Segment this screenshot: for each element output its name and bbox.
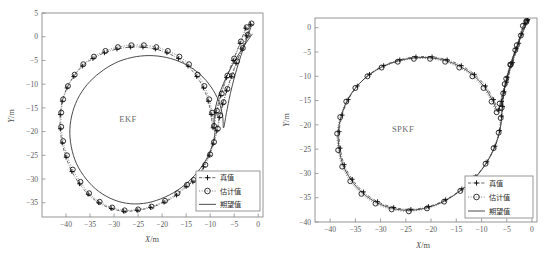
spkf-plot: −40−35−30−25−20−15−10−500−5−10−15−20−25−…	[275, 0, 550, 258]
legend-label-estimate: 估计值	[489, 193, 510, 202]
panel-spkf: −40−35−30−25−20−15−10−500−5−10−15−20−25−…	[275, 0, 550, 258]
x-tick-label: −15	[450, 225, 462, 234]
y-tick-label: −10	[26, 80, 38, 89]
x-tick-label: −25	[132, 220, 144, 229]
y-tick-label: −35	[26, 198, 38, 207]
y-tick-label: −15	[26, 104, 38, 113]
x-tick-label: −5	[230, 220, 238, 229]
x-tick-label: −40	[60, 220, 72, 229]
y-tick-label: −5	[303, 48, 311, 57]
x-tick-label: −35	[349, 225, 361, 234]
spkf-legend: 真值估计值期望值	[465, 176, 533, 218]
x-tick-label: −30	[375, 225, 387, 234]
y-tick-label: −5	[30, 56, 38, 65]
y-tick-label: −40	[299, 218, 311, 227]
legend-label-estimate: 估计值	[220, 187, 241, 196]
spkf-x-axis-title: X/m	[415, 241, 430, 250]
y-tick-label: 0	[34, 32, 38, 41]
ekf-x-axis-title: X/m	[144, 235, 159, 244]
y-tick-label: −10	[299, 72, 311, 81]
panel-ekf: −40−35−30−25−20−15−10−5050−5−10−15−20−25…	[0, 0, 275, 258]
y-tick-label: −25	[26, 151, 38, 160]
y-tick-label: −30	[299, 169, 311, 178]
legend-label-true: 真值	[220, 173, 234, 182]
x-tick-label: −20	[425, 225, 437, 234]
x-tick-label: −35	[84, 220, 96, 229]
panel-label-ekf: EKF	[119, 114, 136, 124]
marker-circle	[110, 205, 115, 210]
ekf-y-axis-title: Y/m	[7, 109, 16, 123]
y-tick-label: 5	[34, 9, 38, 18]
y-tick-label: −15	[299, 96, 311, 105]
x-tick-label: −15	[180, 220, 192, 229]
panel-label-spkf: SPKF	[392, 124, 414, 134]
y-tick-label: −35	[299, 193, 311, 202]
y-tick-label: −20	[26, 127, 38, 136]
x-tick-label: −20	[156, 220, 168, 229]
y-tick-label: −30	[26, 175, 38, 184]
x-tick-label: −10	[204, 220, 216, 229]
legend-label-expected: 期望值	[489, 207, 510, 216]
legend-label-true: 真值	[489, 179, 503, 188]
y-tick-label: −20	[299, 121, 311, 130]
spkf-y-axis-title: Y/m	[282, 113, 291, 127]
legend-label-expected: 期望值	[220, 200, 241, 209]
x-tick-label: 0	[256, 220, 260, 229]
x-tick-label: −5	[503, 225, 511, 234]
y-tick-label: 0	[307, 23, 311, 32]
x-tick-label: 0	[530, 225, 534, 234]
figure-container: −40−35−30−25−20−15−10−5050−5−10−15−20−25…	[0, 0, 550, 258]
ekf-legend: 真值估计值期望值	[196, 171, 260, 211]
x-tick-label: −40	[324, 225, 336, 234]
y-tick-label: −25	[299, 145, 311, 154]
x-tick-label: −10	[476, 225, 488, 234]
x-tick-label: −25	[400, 225, 412, 234]
ekf-plot: −40−35−30−25−20−15−10−5050−5−10−15−20−25…	[0, 0, 275, 258]
x-tick-label: −30	[108, 220, 120, 229]
